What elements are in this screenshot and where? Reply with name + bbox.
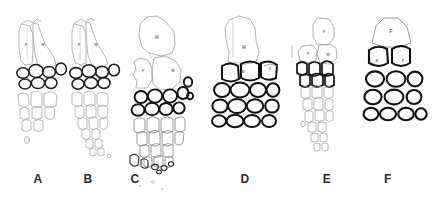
figure-plate: F M: [0, 0, 432, 203]
panel-d-label-m: M: [242, 70, 245, 74]
panel-label-e: E: [317, 172, 337, 186]
panel-f-label-f-top: F: [390, 29, 393, 34]
panel-b-label-m: M: [95, 43, 98, 47]
panel-e-label-m: M: [327, 53, 330, 57]
panel-c-label-m: M: [172, 69, 175, 73]
panel-label-d: D: [235, 172, 255, 186]
panel-label-a: A: [28, 172, 48, 186]
panel-label-c: C: [125, 172, 145, 186]
panel-label-b: B: [78, 172, 98, 186]
panel-label-f: F: [378, 172, 398, 186]
plate-drawing: F M: [0, 0, 432, 203]
panel-a-label-m: M: [42, 43, 45, 47]
